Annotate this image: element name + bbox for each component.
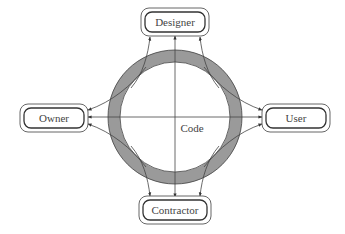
code-stakeholder-diagram: Code Designer Owner User Contractor [0,0,345,234]
contractor-label: Contractor [151,204,198,216]
node-contractor: Contractor [139,196,211,224]
owner-label: Owner [39,112,69,124]
node-user: User [262,104,330,132]
node-owner: Owner [20,104,88,132]
user-label: User [286,112,307,124]
node-designer: Designer [141,8,209,36]
code-label: Code [180,122,203,134]
designer-label: Designer [155,16,195,28]
